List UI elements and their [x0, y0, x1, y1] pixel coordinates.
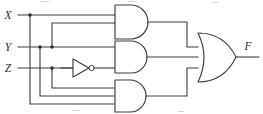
logic-circuit-diagram: X Y Z F	[0, 0, 263, 114]
and-gate-bottom	[115, 68, 198, 112]
not-gate-bubble-icon	[89, 65, 94, 70]
output-label-f: F	[243, 40, 252, 52]
junction-dots	[28, 13, 53, 69]
and-gate-middle	[115, 41, 198, 73]
y-branch-wires	[52, 23, 115, 47]
wire-y-to-top-and	[52, 23, 115, 47]
input-label-x: X	[3, 9, 12, 21]
input-label-y: Y	[5, 41, 13, 53]
and-gate-top-body	[115, 5, 148, 39]
not-gate	[73, 59, 115, 77]
input-label-z: Z	[5, 62, 12, 74]
or-gate-body	[198, 33, 236, 82]
circuit-canvas: X Y Z F	[0, 0, 263, 114]
junction-dot-y-lower	[38, 45, 41, 48]
junction-dot-z	[50, 66, 53, 69]
junction-dot-x	[28, 13, 31, 16]
not-gate-triangle	[73, 59, 89, 77]
wire-and-top-output	[148, 22, 198, 47]
wire-and-bottom-output	[146, 68, 198, 96]
and-gate-bottom-body	[115, 80, 146, 112]
junction-dot-y-upper	[50, 45, 53, 48]
and-gate-middle-body	[115, 41, 147, 73]
